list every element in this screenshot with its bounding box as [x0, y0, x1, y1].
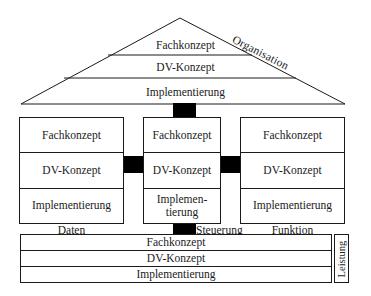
- aris-house-diagram: Fachkonzept DV-Konzept Implementierung O…: [0, 0, 371, 296]
- column-daten: Fachkonzept DV-Konzept Implementierung: [19, 117, 124, 224]
- steuerung-level-implementierung: Implemen- tierung: [144, 189, 220, 223]
- connector-block-top: [173, 103, 196, 118]
- roof-level-dv-konzept: DV-Konzept: [0, 62, 371, 74]
- roof-level-implementierung: Implementierung: [0, 87, 371, 99]
- roof-outline: [0, 0, 371, 120]
- base-level-dv-konzept: DV-Konzept: [21, 251, 331, 267]
- base-block-leistung: Fachkonzept DV-Konzept Implementierung: [20, 234, 332, 283]
- funktion-level-dv-konzept: DV-Konzept: [241, 153, 344, 188]
- steuerung-level-fachkonzept: Fachkonzept: [144, 118, 220, 153]
- base-level-implementierung: Implementierung: [21, 267, 331, 282]
- daten-level-fachkonzept: Fachkonzept: [20, 118, 123, 153]
- side-label-leistung: Leistung: [336, 240, 347, 277]
- daten-level-dv-konzept: DV-Konzept: [20, 153, 123, 188]
- funktion-level-implementierung: Implementierung: [241, 189, 344, 223]
- side-label-box-leistung: Leistung: [334, 234, 349, 283]
- base-level-fachkonzept: Fachkonzept: [21, 235, 331, 251]
- daten-level-implementierung: Implementierung: [20, 189, 123, 223]
- roof-level-fachkonzept: Fachkonzept: [0, 40, 371, 52]
- column-steuerung: Fachkonzept DV-Konzept Implemen- tierung: [143, 117, 221, 224]
- steuerung-level-dv-konzept: DV-Konzept: [144, 153, 220, 188]
- funktion-level-fachkonzept: Fachkonzept: [241, 118, 344, 153]
- column-funktion: Fachkonzept DV-Konzept Implementierung: [240, 117, 345, 224]
